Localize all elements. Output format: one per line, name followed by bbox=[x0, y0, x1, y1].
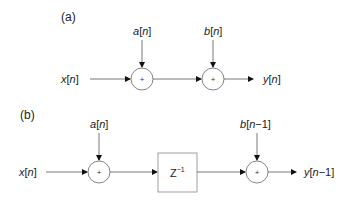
panel-a-label: (a) bbox=[61, 10, 76, 24]
panel-b-input-label: x[n] bbox=[18, 166, 37, 178]
panel-a-adder2-input-label: b[n] bbox=[204, 25, 222, 37]
plus-icon: + bbox=[255, 168, 260, 177]
panel-b: (b) x[n] a[n] + Z−1 b[n−1] + y[n−1] bbox=[18, 108, 334, 192]
panel-a-output-label: y[n] bbox=[262, 73, 281, 85]
plus-icon: + bbox=[140, 75, 145, 84]
panel-a-input-label: x[n] bbox=[60, 73, 79, 85]
panel-b-label: (b) bbox=[20, 108, 35, 122]
plus-icon: + bbox=[97, 168, 102, 177]
panel-b-output-label: y[n−1] bbox=[303, 166, 334, 178]
panel-b-adder2: + bbox=[246, 161, 268, 183]
panel-a-adder1: + bbox=[131, 68, 153, 90]
panel-b-adder2-input-label: b[n−1] bbox=[240, 118, 271, 130]
panel-b-adder1: + bbox=[88, 161, 110, 183]
plus-icon: + bbox=[211, 75, 216, 84]
panel-a-adder2: + bbox=[202, 68, 224, 90]
panel-b-delay-block: Z−1 bbox=[158, 153, 197, 192]
panel-b-adder1-input-label: a[n] bbox=[90, 118, 108, 130]
diagram-canvas: (a) x[n] a[n] + b[n] + y[n] (b) x[n] a[n… bbox=[0, 0, 350, 201]
panel-a-adder1-input-label: a[n] bbox=[133, 25, 151, 37]
panel-a: (a) x[n] a[n] + b[n] + y[n] bbox=[60, 10, 281, 90]
